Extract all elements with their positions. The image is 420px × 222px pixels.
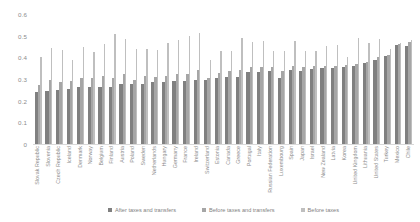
bar-group[interactable]: [213, 14, 224, 144]
bar-group[interactable]: [54, 14, 65, 144]
x-axis-category-labels: Slovak RepublicSloveniaCzech RepublicIce…: [33, 146, 414, 200]
bar-series-2[interactable]: [326, 46, 327, 144]
legend-item[interactable]: Before taxes: [301, 207, 339, 213]
x-axis-tick-label: Belgium: [99, 146, 104, 166]
bar-group[interactable]: [128, 14, 139, 144]
bar-group[interactable]: [86, 14, 97, 144]
y-axis-tick-label: 0.5: [18, 32, 27, 39]
bar-series-2[interactable]: [178, 40, 179, 144]
bar-group[interactable]: [44, 14, 55, 144]
x-axis-tick: Latvia: [329, 146, 340, 200]
bar-series-2[interactable]: [284, 51, 285, 144]
bar-group[interactable]: [65, 14, 76, 144]
bar-series-2[interactable]: [199, 33, 200, 144]
bar-group[interactable]: [276, 14, 287, 144]
bar-group[interactable]: [287, 14, 298, 144]
bar-series-2[interactable]: [125, 39, 126, 144]
bar-group[interactable]: [223, 14, 234, 144]
bar-group[interactable]: [361, 14, 372, 144]
x-axis-tick: Hungary: [160, 146, 171, 200]
bar-series-2[interactable]: [93, 52, 94, 144]
bar-group[interactable]: [202, 14, 213, 144]
bar-group[interactable]: [266, 14, 277, 144]
x-axis-tick-label: Estonia: [215, 146, 220, 164]
bar-series-2[interactable]: [411, 40, 412, 144]
x-axis-tick-label: Sweden: [141, 146, 146, 165]
bar-series-2[interactable]: [390, 49, 391, 144]
bar-series-2[interactable]: [252, 42, 253, 144]
x-axis-tick: Chile: [403, 146, 414, 200]
bar-series-2[interactable]: [146, 49, 147, 144]
x-axis-tick: Germany: [171, 146, 182, 200]
bar-group[interactable]: [245, 14, 256, 144]
bar-series-2[interactable]: [358, 38, 359, 144]
x-axis-tick: Mexico: [393, 146, 404, 200]
bar-group[interactable]: [329, 14, 340, 144]
bar-group[interactable]: [308, 14, 319, 144]
bar-group[interactable]: [403, 14, 414, 144]
bar-group[interactable]: [181, 14, 192, 144]
bar-series-2[interactable]: [379, 39, 380, 144]
x-axis-tick-label: Czech Republic: [57, 146, 62, 184]
legend-item[interactable]: After taxes and transfers: [108, 207, 176, 213]
x-axis-tick-label: Austria: [120, 146, 125, 163]
bar-group[interactable]: [382, 14, 393, 144]
bar-series-2[interactable]: [305, 51, 306, 144]
bar-series-2[interactable]: [114, 34, 115, 144]
bar-group[interactable]: [340, 14, 351, 144]
x-axis-tick: Iceland: [65, 146, 76, 200]
x-axis-tick-label: Luxembourg: [279, 146, 284, 176]
x-axis-tick: Sweden: [139, 146, 150, 200]
bar-series-2[interactable]: [40, 57, 41, 144]
bar-group[interactable]: [297, 14, 308, 144]
x-axis-tick: Greece: [234, 146, 245, 200]
bar-group[interactable]: [372, 14, 383, 144]
bar-series-2[interactable]: [72, 60, 73, 145]
bar-series-2[interactable]: [347, 57, 348, 144]
bar-series-2[interactable]: [273, 51, 274, 144]
bar-series-2[interactable]: [337, 45, 338, 144]
bar-series-2[interactable]: [400, 43, 401, 144]
x-axis-tick: Spain: [287, 146, 298, 200]
bar-series-2[interactable]: [241, 38, 242, 144]
bar-series-2[interactable]: [62, 50, 63, 144]
bar-series-2[interactable]: [189, 36, 190, 144]
bar-series-2[interactable]: [315, 51, 316, 144]
bar-group[interactable]: [96, 14, 107, 144]
bar-series-2[interactable]: [220, 51, 221, 144]
bar-group[interactable]: [192, 14, 203, 144]
bar-series-2[interactable]: [157, 50, 158, 144]
bar-series-2[interactable]: [51, 48, 52, 144]
bar-series-2[interactable]: [263, 41, 264, 144]
x-axis-tick: Portugal: [245, 146, 256, 200]
bar-series-2[interactable]: [210, 60, 211, 144]
bar-group[interactable]: [171, 14, 182, 144]
bar-group[interactable]: [319, 14, 330, 144]
bar-group[interactable]: [139, 14, 150, 144]
bar-group[interactable]: [75, 14, 86, 144]
bar-series-2[interactable]: [231, 51, 232, 144]
bar-group[interactable]: [107, 14, 118, 144]
x-axis-tick-label: Latvia: [332, 146, 337, 160]
bar-group[interactable]: [33, 14, 44, 144]
bar-series-2[interactable]: [368, 43, 369, 144]
x-axis-tick: Slovak Republic: [33, 146, 44, 200]
x-axis-tick-label: Canada: [226, 146, 231, 165]
bar-series-2[interactable]: [136, 49, 137, 144]
bar-group[interactable]: [118, 14, 129, 144]
legend-item[interactable]: Before taxes and transfers: [202, 207, 275, 213]
bar-series-2[interactable]: [294, 41, 295, 144]
bar-group[interactable]: [234, 14, 245, 144]
bar-group[interactable]: [393, 14, 404, 144]
x-axis-tick: Belgium: [96, 146, 107, 200]
plot-area: [33, 14, 414, 144]
bar-series-2[interactable]: [83, 47, 84, 144]
bar-group[interactable]: [350, 14, 361, 144]
bar-group[interactable]: [255, 14, 266, 144]
chart-legend: After taxes and transfersBefore taxes an…: [33, 203, 414, 217]
bar-series-2[interactable]: [104, 44, 105, 144]
bar-group[interactable]: [160, 14, 171, 144]
bar-group[interactable]: [149, 14, 160, 144]
x-axis-tick-label: Israel: [311, 146, 316, 159]
bar-series-2[interactable]: [167, 43, 168, 144]
